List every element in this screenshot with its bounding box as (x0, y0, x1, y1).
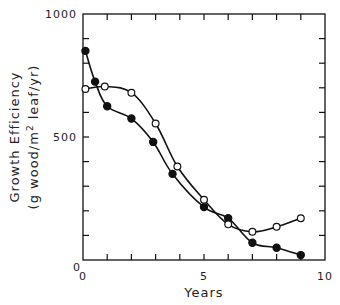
y-tick-1000: 1000 (45, 8, 77, 21)
open-circle-marker (82, 86, 89, 93)
open-circle-marker (225, 221, 232, 228)
filled-circle-marker (82, 47, 89, 54)
open-circle-marker (152, 120, 159, 127)
y-tick-500: 500 (53, 131, 77, 144)
open-circle-marker (297, 215, 304, 222)
x-tick-10: 10 (317, 270, 333, 283)
series-line (85, 51, 300, 255)
filled-circle-marker (150, 138, 157, 145)
chart: 0 5 10 1000 500 0 Years Growth Efficienc… (0, 0, 340, 305)
y-axis-title-line2: (g wood/m2 leaf/yr) (25, 65, 41, 210)
series-filled (82, 47, 305, 258)
open-circle-marker (128, 89, 135, 96)
series-line (85, 86, 300, 231)
open-circle-marker (201, 196, 208, 203)
y-axis-title-line1: Growth Efficiency (7, 71, 22, 202)
filled-circle-marker (273, 244, 280, 251)
y-axis-title: Growth Efficiency (g wood/m2 leaf/yr) (7, 65, 41, 210)
open-circle-marker (249, 228, 256, 235)
filled-circle-marker (297, 251, 304, 258)
data-series (82, 47, 305, 258)
x-axis-title: Years (183, 285, 223, 300)
x-tick-5: 5 (200, 270, 208, 283)
y-tick-labels: 1000 500 0 (45, 8, 81, 274)
filled-circle-marker (92, 78, 99, 85)
y-tick-0: 0 (73, 261, 81, 274)
filled-circle-marker (169, 170, 176, 177)
filled-circle-marker (200, 204, 207, 211)
filled-circle-marker (104, 103, 111, 110)
open-circle-marker (174, 163, 181, 170)
x-tick-labels: 0 5 10 (79, 270, 333, 283)
open-circle-marker (273, 223, 280, 230)
series-open (82, 83, 304, 235)
filled-circle-marker (128, 115, 135, 122)
open-circle-marker (101, 83, 108, 90)
filled-circle-marker (249, 239, 256, 246)
